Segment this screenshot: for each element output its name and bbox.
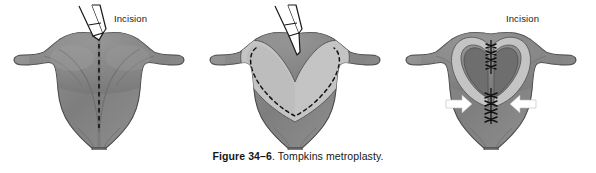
figure-number: Figure 34–6 — [212, 150, 271, 162]
panel-step-2: Incision — [196, 0, 395, 150]
figure-caption: Figure 34–6. Tompkins metroplasty. — [0, 150, 596, 162]
figure-container: Incision — [0, 0, 596, 173]
illustration-panels: Incision — [0, 0, 596, 150]
figure-caption-text: . Tompkins metroplasty. — [272, 150, 384, 162]
panel-step-1: Incision — [0, 0, 199, 150]
panel-step-3 — [392, 0, 591, 150]
incision-label-panel-1: Incision — [114, 13, 147, 24]
